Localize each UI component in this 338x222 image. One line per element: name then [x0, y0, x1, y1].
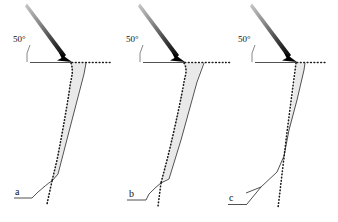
- angle-arc-b: [140, 45, 143, 62]
- impact-arrow-shaft-a: [25, 4, 66, 59]
- angle-label-a: 50°: [13, 34, 26, 44]
- angle-label-b: 50°: [126, 34, 139, 44]
- original-profile-dotted-c: [278, 63, 296, 208]
- panel-letter-a: a: [15, 186, 20, 197]
- ground-profile-line-a: [14, 181, 52, 198]
- panel-a-graphic: 50° a: [0, 0, 113, 222]
- angle-arc-a: [27, 45, 30, 62]
- panel-b: 50° b: [113, 0, 225, 222]
- original-profile-dotted-tail-a: [47, 181, 52, 204]
- panel-b-graphic: 50° b: [113, 0, 225, 222]
- panel-letter-c: c: [229, 192, 234, 203]
- angle-arc-c: [252, 45, 255, 62]
- shaded-deformation-zone: [161, 63, 203, 182]
- panel-a: 50° a: [0, 0, 113, 222]
- panel-c: 50° c: [225, 0, 338, 222]
- panel-letter-b: b: [129, 188, 134, 199]
- shaded-deformation-zone: [287, 63, 305, 132]
- original-profile-dotted-tail-b: [158, 183, 161, 206]
- impact-arrow-shaft-b: [138, 4, 179, 59]
- figure-root: 50° a: [0, 0, 338, 222]
- shaded-deformation-zone: [52, 63, 86, 180]
- impact-arrow-shaft-c: [250, 4, 291, 59]
- panel-c-graphic: 50° c: [225, 0, 338, 222]
- angle-label-c: 50°: [238, 34, 251, 44]
